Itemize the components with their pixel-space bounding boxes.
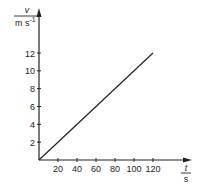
data-line (39, 53, 153, 160)
y-tick-label: 10 (25, 66, 35, 76)
x-axis-arrow-icon (183, 158, 192, 163)
x-tick-label: 60 (91, 164, 101, 174)
y-axis-arrow-icon (37, 8, 42, 17)
y-tick-label: 8 (30, 84, 35, 94)
x-tick-label: 100 (126, 164, 141, 174)
x-tick-label: 120 (145, 164, 160, 174)
x-axis-unit: s (184, 174, 189, 184)
x-tick-label: 80 (110, 164, 120, 174)
y-axis-symbol: v (25, 5, 30, 15)
y-tick-label: 4 (30, 120, 35, 130)
y-axis-unit: m s-1 (15, 16, 36, 28)
velocity-time-chart: 24681012 20406080100120 v m s-1 t s (0, 0, 197, 187)
y-tick-label: 12 (25, 49, 35, 59)
x-tick-label: 20 (53, 164, 63, 174)
x-axis-symbol: t (185, 163, 188, 173)
x-tick-label: 40 (72, 164, 82, 174)
y-tick-label: 2 (30, 138, 35, 148)
y-tick-label: 6 (30, 102, 35, 112)
